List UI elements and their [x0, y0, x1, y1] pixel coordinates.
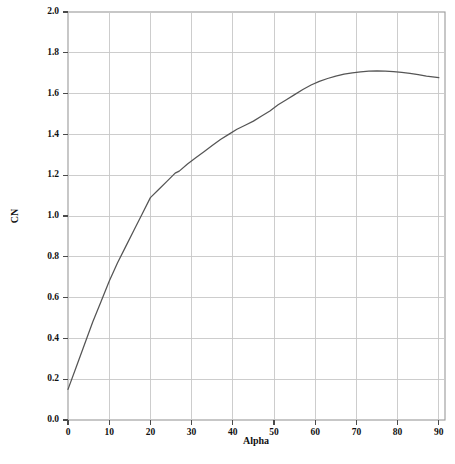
x-axis-tickmarks: [68, 420, 439, 425]
y-tick-label: 1.8: [47, 47, 59, 57]
x-tick-label: 30: [187, 427, 197, 437]
x-tick-label: 70: [352, 427, 362, 437]
x-tick-label: 60: [310, 427, 320, 437]
y-tick-label: 0.2: [47, 373, 59, 383]
x-tick-label: 90: [434, 427, 444, 437]
y-tick-label: 0.4: [47, 333, 59, 343]
x-tick-label: 80: [393, 427, 403, 437]
chart-container: 0.00.20.40.60.81.01.21.41.61.82.0 010203…: [0, 0, 455, 464]
y-tick-label: 0.0: [47, 414, 59, 424]
x-tick-label: 40: [228, 427, 238, 437]
y-tick-label: 1.6: [47, 88, 59, 98]
x-tick-label: 0: [66, 427, 71, 437]
x-axis-title: Alpha: [243, 435, 269, 446]
y-tick-label: 0.8: [47, 251, 59, 261]
y-tick-label: 0.6: [47, 292, 59, 302]
y-axis-tickmarks: [63, 12, 68, 420]
y-tick-label: 1.4: [47, 129, 59, 139]
line-chart: 0.00.20.40.60.81.01.21.41.61.82.0 010203…: [0, 0, 455, 464]
y-axis-tick-labels: 0.00.20.40.60.81.01.21.41.61.82.0: [47, 6, 59, 424]
y-tick-label: 1.2: [47, 169, 59, 179]
y-tick-label: 1.0: [47, 210, 59, 220]
x-tick-label: 10: [104, 427, 114, 437]
y-tick-label: 2.0: [47, 6, 59, 16]
y-axis-title: CN: [9, 208, 20, 223]
x-tick-label: 50: [269, 427, 279, 437]
x-tick-label: 20: [146, 427, 156, 437]
